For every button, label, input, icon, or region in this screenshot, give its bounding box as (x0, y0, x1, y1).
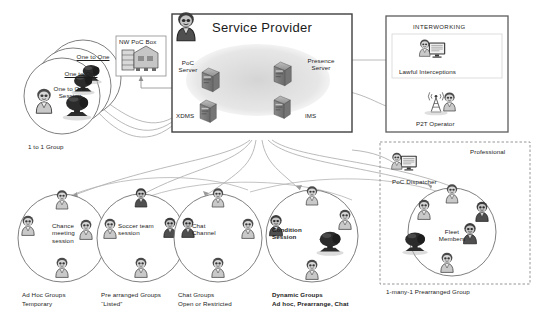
diagram-vector-layer (0, 0, 535, 322)
nw-poc-box-label: NW PoC Box (119, 38, 156, 45)
poc-dispatcher-label: PoC Dispatcher (392, 178, 437, 185)
professional-caption: 1-many-1 Prearranged Group (386, 288, 470, 295)
group-caption-ad-hoc-1: Ad Hoc Groups (22, 291, 66, 298)
group-caption-ad-hoc-2: Temporary (22, 300, 52, 307)
group-session-label-ad-hoc: Chance meeting session (52, 222, 75, 244)
presence-server-label: Presence Server (298, 57, 344, 72)
service-provider-title: Service Provider (212, 20, 312, 35)
group-caption-dynamic-1: Dynamic Groups (272, 291, 323, 298)
lawful-interceptions-label: Lawful Interceptions (399, 68, 456, 75)
group-caption-pre-arranged-1: Pre arranged Groups (101, 291, 161, 298)
one-to-one-caption: 1 to 1 Group (28, 143, 64, 150)
p2t-operator-label: P2T Operator (416, 120, 455, 127)
professional-title: Professional (470, 148, 505, 155)
group-caption-dynamic-2: Ad hoc, Prearrange, Chat (272, 300, 349, 307)
one-to-one-label-2: One to One (50, 70, 112, 77)
diagram-canvas: Service Provider PoC Server Presence Ser… (0, 0, 535, 322)
xdms-label: XDMS (176, 112, 194, 119)
poc-server-label: PoC Server (168, 59, 208, 74)
one-to-one-session-label: One to One Session (38, 85, 102, 100)
group-caption-pre-arranged-2: “Listed” (101, 300, 122, 307)
group-session-label-pre-arranged: Soccer team session (118, 222, 154, 237)
interworking-title: INTERWORKING (413, 24, 466, 31)
group-caption-chat-2: Open or Restricted (178, 300, 232, 307)
professional-panel (380, 142, 530, 284)
group-session-label-dynamic: Condition Session (272, 226, 302, 241)
group-session-label-chat: Chat Channel (192, 222, 216, 237)
group-caption-chat-1: Chat Groups (178, 291, 214, 298)
ims-label: IMS (305, 112, 316, 119)
one-to-one-label-1: One to One (62, 53, 124, 60)
fleet-members-label: Fleet Members (430, 228, 474, 243)
